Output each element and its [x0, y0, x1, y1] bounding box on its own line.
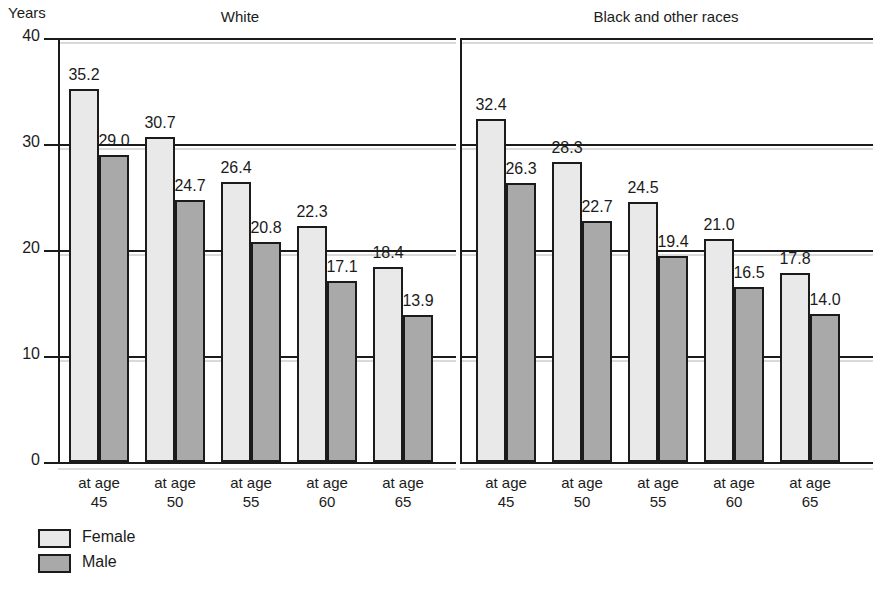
legend-swatch-male-icon — [38, 554, 71, 573]
legend-swatch-female-icon — [38, 529, 71, 548]
x-axis-category-label-line1: 65 — [765, 492, 855, 511]
y-axis-unit-label: Years — [8, 4, 46, 21]
y-axis-tick-label-30: 30 — [6, 133, 40, 151]
bar-value-label-panel0-1-female: 30.7 — [132, 114, 188, 132]
bar-panel1-3-male — [734, 287, 764, 462]
bar-panel0-0-male — [99, 155, 129, 462]
bar-panel1-4-male — [810, 314, 840, 462]
x-axis-category-label-panel0-4: at age65 — [358, 473, 448, 511]
x-axis-baseline-shadow-panel1 — [460, 468, 873, 470]
x-axis-category-label-line1: 65 — [358, 492, 448, 511]
x-axis-baseline-panel0 — [58, 462, 456, 464]
y-axis-tick-label-0: 0 — [6, 451, 40, 469]
bar-value-label-panel0-0-female: 35.2 — [56, 66, 112, 84]
x-axis-baseline-shadow-panel0 — [58, 468, 456, 470]
bar-panel0-1-male — [175, 200, 205, 462]
bar-value-label-panel0-3-female: 22.3 — [284, 203, 340, 221]
bar-value-label-panel0-0-male: 29.0 — [86, 132, 142, 150]
bar-value-label-panel0-1-male: 24.7 — [162, 177, 218, 195]
bar-panel1-2-male — [658, 256, 688, 462]
bar-value-label-panel1-4-male: 14.0 — [797, 291, 853, 309]
bar-value-label-panel1-2-female: 24.5 — [615, 179, 671, 197]
bar-value-label-panel1-3-female: 21.0 — [691, 216, 747, 234]
gridline-panel1-40 — [460, 38, 873, 40]
bar-panel0-3-male — [327, 281, 357, 462]
bar-panel0-4-male — [403, 315, 433, 462]
x-axis-category-label-line0: at age — [358, 473, 448, 492]
bar-value-label-panel1-4-female: 17.8 — [767, 250, 823, 268]
bar-value-label-panel1-0-female: 32.4 — [463, 96, 519, 114]
gridline-shadow-panel0-40 — [58, 42, 456, 44]
panel-title-1: Black and other races — [526, 8, 806, 25]
bar-value-label-panel1-1-male: 22.7 — [569, 198, 625, 216]
x-axis-category-label-line0: at age — [765, 473, 855, 492]
x-axis-baseline-panel1 — [460, 462, 873, 464]
bar-panel0-2-male — [251, 242, 281, 462]
bar-value-label-panel1-1-female: 28.3 — [539, 139, 595, 157]
bar-panel1-1-male — [582, 221, 612, 462]
gridline-shadow-panel1-30 — [460, 148, 873, 150]
y-axis-tick-label-10: 10 — [6, 345, 40, 363]
bar-value-label-panel1-0-male: 26.3 — [493, 160, 549, 178]
panel-title-0: White — [100, 8, 380, 25]
bar-value-label-panel0-2-male: 20.8 — [238, 219, 294, 237]
bar-panel1-0-male — [506, 183, 536, 462]
bar-value-label-panel0-4-female: 18.4 — [360, 244, 416, 262]
y-axis-tick-label-20: 20 — [6, 239, 40, 257]
legend-label-female: Female — [82, 528, 135, 546]
gridline-shadow-panel1-40 — [460, 42, 873, 44]
bar-value-label-panel0-4-male: 13.9 — [390, 292, 446, 310]
bar-value-label-panel1-2-male: 19.4 — [645, 233, 701, 251]
legend-label-male: Male — [82, 553, 117, 571]
gridline-panel1-30 — [460, 144, 873, 146]
y-axis-tick-label-40: 40 — [6, 27, 40, 45]
y-axis-line-panel1 — [460, 38, 462, 462]
bar-value-label-panel0-2-female: 26.4 — [208, 159, 264, 177]
x-axis-category-label-panel1-4: at age65 — [765, 473, 855, 511]
chart-container: Years 010203040White35.229.0at age4530.7… — [0, 0, 879, 593]
gridline-panel0-40 — [58, 38, 456, 40]
y-axis-line-panel0 — [58, 38, 60, 462]
